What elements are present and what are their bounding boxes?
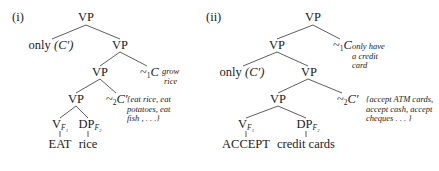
syntax-tree-figure: (i) VP only (C′) VP VP ~1C grow rice VP …	[0, 0, 439, 171]
tree-ii-verb-node: VF₁	[238, 117, 254, 135]
tree-i-only-node: only (C′)	[29, 38, 74, 52]
tree-ii-squiggle1-annotation: only have a credit card	[352, 42, 385, 71]
tree-i-squiggle2-annotation: {eat rice, eat potatoes, eat fish , . . …	[127, 95, 171, 124]
tree-i-squiggle1-node: ~1C	[140, 65, 159, 83]
tree-i-root-vp: VP	[78, 10, 94, 24]
tree-i-vp-low: VP	[68, 92, 84, 106]
tree-i-squiggle1-annotation: grow rice	[162, 67, 179, 86]
tree-ii-only-node: only (C′)	[220, 65, 265, 79]
only-arg: (C′)	[54, 38, 73, 52]
tree-ii-vp-low: VP	[270, 92, 286, 106]
only-word: only	[29, 38, 51, 52]
tree-ii-root-vp: VP	[305, 10, 321, 24]
tree-ii-dp-leaf: credit cards	[277, 137, 335, 151]
tree-i-vp-mid: VP	[92, 65, 108, 79]
tree-i-verb-node: VF₁	[52, 117, 68, 135]
tree-ii-vp-mid: VP	[301, 65, 317, 79]
squiggle-op: ~	[140, 65, 147, 79]
tree-i-squiggle2-node: ~2C′	[106, 92, 128, 110]
tree-i-dp-leaf: rice	[79, 137, 98, 151]
tree-ii-squiggle1-node: ~1C	[333, 38, 352, 56]
tree-ii-dp-node: DPF₂	[296, 117, 319, 135]
tree-ii-verb-leaf: ACCEPT	[222, 137, 270, 151]
tree-ii-label: (ii)	[206, 10, 221, 24]
tree-i-dp-node: DPF₂	[78, 117, 101, 135]
tree-ii-squiggle2-annotation: {accept ATM cards, accept cash, accept c…	[366, 95, 433, 124]
tree-i-vp-right: VP	[112, 38, 128, 52]
tree-ii-squiggle2-node: ~2C′	[337, 92, 359, 110]
tree-i-label: (i)	[12, 10, 24, 24]
tree-i-verb-leaf: EAT	[49, 137, 72, 151]
tree-ii-vp-left: VP	[269, 38, 285, 52]
